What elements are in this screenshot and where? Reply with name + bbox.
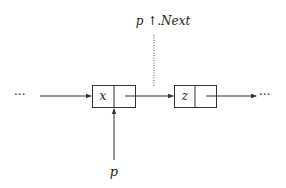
next-pointer-label: p ↑.Next xyxy=(136,14,191,28)
node-z-value: z xyxy=(181,89,189,103)
linked-list-diagram: ··· x p ↑.Next z ··· p xyxy=(0,0,286,188)
left-ellipsis: ··· xyxy=(14,88,25,102)
pointer-p-label: p xyxy=(110,164,119,179)
node-x-value: x xyxy=(100,89,107,103)
right-ellipsis: ··· xyxy=(259,88,270,102)
